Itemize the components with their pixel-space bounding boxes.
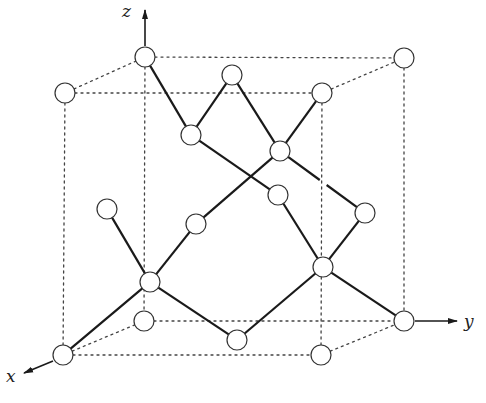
- atom-a6: [181, 125, 201, 145]
- bond: [283, 203, 317, 258]
- atom-a4: [55, 83, 75, 103]
- atom-a15: [394, 311, 414, 331]
- bond: [150, 66, 186, 127]
- bond: [288, 157, 320, 180]
- atom-a12: [313, 257, 333, 277]
- bond: [237, 83, 274, 142]
- bond: [329, 221, 359, 259]
- x-axis-label: x: [6, 366, 16, 386]
- atom-a14: [134, 311, 154, 331]
- atom-a2: [394, 48, 414, 68]
- bond: [197, 83, 227, 126]
- bond: [331, 273, 395, 316]
- atom-a10: [355, 203, 375, 223]
- atom-a17: [53, 345, 73, 365]
- bond: [327, 185, 357, 207]
- covalent-bonds: [71, 66, 396, 349]
- atom-a13: [140, 272, 160, 292]
- cube-edge: [331, 62, 395, 89]
- z-axis-label: z: [121, 1, 132, 21]
- cube-edge: [63, 103, 65, 345]
- atom-a1: [135, 47, 155, 67]
- bond: [112, 218, 145, 274]
- bond: [199, 141, 270, 190]
- atom-a8: [268, 185, 288, 205]
- cube-edge: [321, 103, 322, 345]
- y-axis-label: y: [463, 311, 474, 331]
- atom-a5: [312, 83, 332, 103]
- cube-edge: [74, 61, 136, 89]
- diamond-lattice-diagram: z y x: [0, 0, 486, 403]
- cube-edge: [330, 325, 394, 351]
- bond: [71, 288, 143, 348]
- bond: [245, 273, 316, 333]
- cube-edge: [155, 57, 394, 58]
- bond: [158, 288, 228, 335]
- atom-a18: [311, 345, 331, 365]
- atom-a11: [186, 214, 206, 234]
- bond: [156, 232, 190, 274]
- bond: [286, 101, 316, 143]
- atom-a7: [270, 141, 290, 161]
- atom-a3: [222, 65, 242, 85]
- atom-a16: [227, 330, 247, 350]
- x-axis: [24, 361, 53, 373]
- atom-a9: [97, 199, 117, 219]
